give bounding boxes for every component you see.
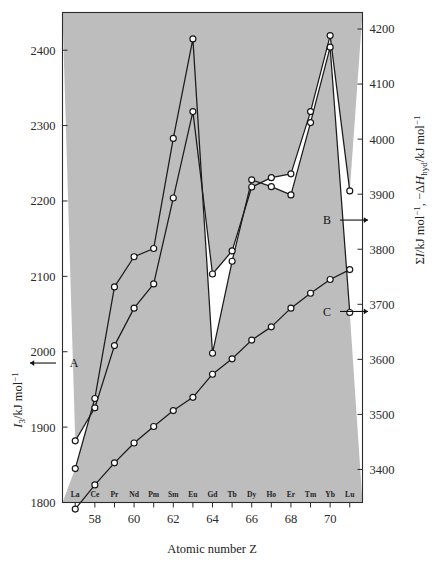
x-axis-title: Atomic number Z xyxy=(167,542,257,556)
data-point-c xyxy=(308,290,314,296)
data-point-c xyxy=(347,267,353,273)
data-point-a xyxy=(268,184,274,190)
data-point-b xyxy=(190,109,196,115)
data-point-a xyxy=(288,192,294,198)
data-point-c xyxy=(111,460,117,466)
data-point-a xyxy=(308,120,314,126)
element-symbol-labels: LaCePrNdPmSmEuGdTbDyHoErTmYbLu xyxy=(71,490,355,499)
x-tick-label: 62 xyxy=(167,512,180,526)
data-point-a xyxy=(229,258,235,264)
right-tick-label: 4200 xyxy=(370,22,395,36)
data-point-c xyxy=(268,324,274,330)
annotation-label-b: B xyxy=(323,213,331,227)
data-point-c xyxy=(249,337,255,343)
data-point-b xyxy=(229,248,235,254)
element-label: Sm xyxy=(168,490,179,499)
right-tick-label: 3500 xyxy=(370,408,395,422)
data-point-c xyxy=(72,506,78,512)
chart-figure: 1800190020002100220023002400 34003500360… xyxy=(0,0,443,569)
data-point-a xyxy=(210,350,216,356)
right-tick-label: 3400 xyxy=(370,463,395,477)
data-point-b xyxy=(131,305,137,311)
data-point-b xyxy=(92,405,98,411)
data-point-c xyxy=(210,371,216,377)
right-tick-label: 3900 xyxy=(370,188,395,202)
element-label: Nd xyxy=(129,490,139,499)
data-point-b xyxy=(268,175,274,181)
data-point-a xyxy=(249,177,255,183)
left-tick-label: 2000 xyxy=(31,345,56,359)
x-tick-label: 60 xyxy=(128,512,141,526)
right-tick-label: 3800 xyxy=(370,243,395,257)
right-tick-label: 4100 xyxy=(370,77,395,91)
element-label: Er xyxy=(287,490,296,499)
data-point-b xyxy=(72,438,78,444)
left-tick-label: 2200 xyxy=(31,194,56,208)
data-point-a xyxy=(111,284,117,290)
element-label: Ho xyxy=(266,490,276,499)
chart-canvas: 1800190020002100220023002400 34003500360… xyxy=(0,0,443,569)
data-point-b xyxy=(327,33,333,39)
x-tick-label: 70 xyxy=(324,512,337,526)
element-label: Pr xyxy=(110,490,119,499)
x-tick-label: 66 xyxy=(245,512,258,526)
left-tick-label: 2400 xyxy=(31,44,56,58)
data-point-b xyxy=(151,281,157,287)
data-point-c xyxy=(92,482,98,488)
data-point-b xyxy=(347,188,353,194)
data-point-a xyxy=(170,135,176,141)
element-label: Tb xyxy=(227,490,236,499)
data-point-c xyxy=(131,440,137,446)
element-label: Yb xyxy=(325,490,335,499)
data-point-c xyxy=(170,408,176,414)
data-point-a xyxy=(151,245,157,251)
right-axis-title: ΣI/kJ mol−1, −ΔHhyd/kJ mol−1 xyxy=(412,116,429,265)
x-tick-label: 58 xyxy=(89,512,102,526)
annotation-label-a: A xyxy=(70,356,79,370)
right-tick-label: 3600 xyxy=(370,353,395,367)
element-label: Ce xyxy=(90,490,99,499)
data-point-a xyxy=(72,466,78,472)
data-point-c xyxy=(151,424,157,430)
element-label: Gd xyxy=(207,490,218,499)
data-point-c xyxy=(229,356,235,362)
right-tick-label: 3700 xyxy=(370,298,395,312)
element-label: Dy xyxy=(247,490,256,499)
data-point-b xyxy=(288,171,294,177)
data-point-a xyxy=(131,254,137,260)
left-tick-label: 1800 xyxy=(31,496,56,510)
x-tick-label: 64 xyxy=(206,512,219,526)
data-point-b xyxy=(308,109,314,115)
element-label: La xyxy=(71,490,80,499)
data-point-b xyxy=(249,184,255,190)
element-label: Eu xyxy=(188,490,198,499)
element-label: Tm xyxy=(305,490,317,499)
data-point-a xyxy=(190,36,196,42)
left-tick-label: 2300 xyxy=(31,119,56,133)
data-point-a xyxy=(327,44,333,50)
right-tick-label: 4000 xyxy=(370,133,395,147)
data-point-b xyxy=(111,343,117,349)
left-tick-label: 1900 xyxy=(31,421,56,435)
element-label: Pm xyxy=(148,490,160,499)
data-point-b xyxy=(170,195,176,201)
data-point-c xyxy=(288,305,294,311)
data-point-c xyxy=(327,277,333,283)
element-label: Lu xyxy=(345,490,355,499)
annotation-label-c: C xyxy=(323,305,331,319)
data-point-b xyxy=(210,271,216,277)
x-tick-label: 68 xyxy=(285,512,298,526)
data-point-c xyxy=(190,394,196,400)
data-point-a xyxy=(347,310,353,316)
left-tick-label: 2100 xyxy=(31,270,56,284)
data-point-a xyxy=(92,395,98,401)
